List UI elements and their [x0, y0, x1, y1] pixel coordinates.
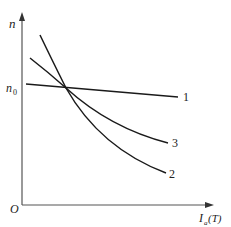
curve-2: [40, 35, 166, 173]
x-axis: [22, 202, 214, 208]
svg-text:0: 0: [13, 88, 17, 97]
origin-label: O: [10, 202, 19, 216]
svg-text:n: n: [6, 81, 12, 95]
curve-3-label: 3: [172, 136, 178, 150]
curve-1-label: 1: [183, 90, 189, 104]
speed-characteristic-figure: n n 0 O I a (T) 1 3 2: [0, 0, 231, 227]
curve-1: [26, 84, 178, 97]
y-axis: [19, 12, 25, 205]
x-axis-arrow-icon: [205, 202, 214, 208]
y-axis-label: n: [9, 16, 16, 31]
x-axis-label: I a (T): [198, 211, 222, 227]
n0-label: n 0: [6, 81, 17, 97]
curve-2-label: 2: [169, 167, 175, 181]
y-axis-arrow-icon: [19, 12, 25, 21]
svg-text:(T): (T): [208, 212, 222, 225]
